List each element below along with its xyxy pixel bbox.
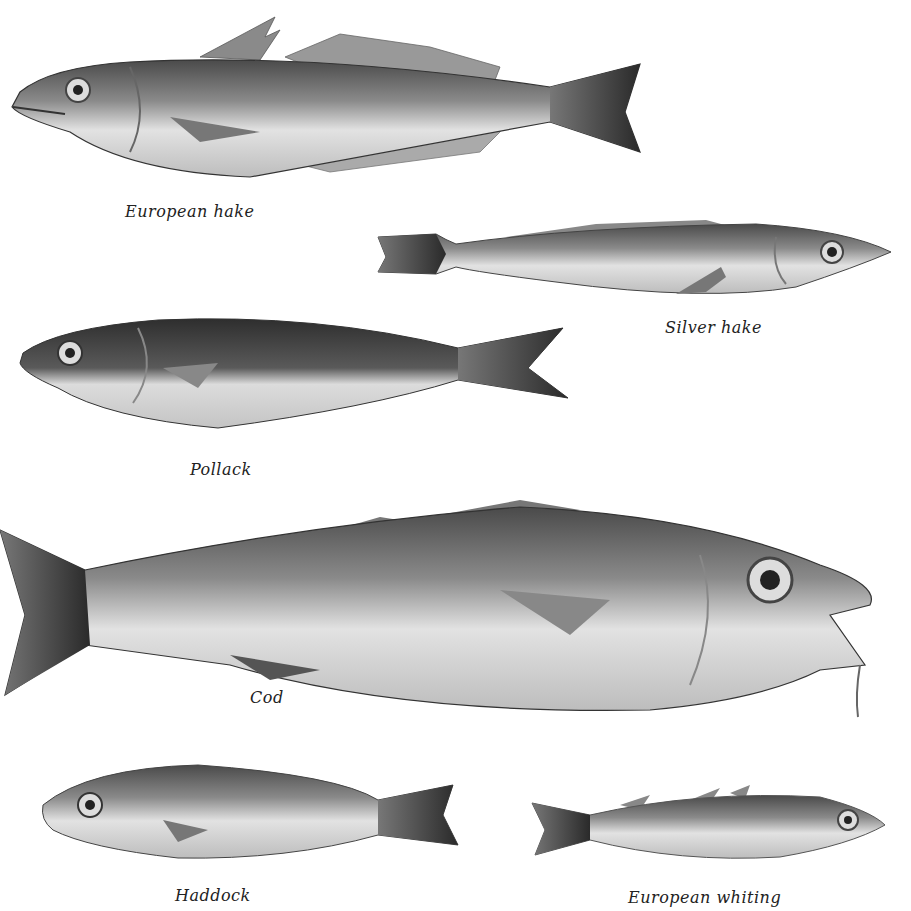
pollack-illustration (18, 308, 578, 438)
caption-european-hake: European hake (125, 202, 254, 221)
caption-european-whiting: European whiting (628, 888, 781, 907)
cod-illustration (0, 495, 880, 720)
european-whiting-illustration (530, 785, 890, 865)
haddock-illustration (38, 760, 463, 865)
silver-hake-illustration (376, 212, 898, 307)
caption-cod: Cod (250, 688, 284, 707)
european-hake-illustration (10, 12, 645, 187)
caption-haddock: Haddock (175, 886, 251, 905)
caption-pollack: Pollack (190, 460, 252, 479)
caption-silver-hake: Silver hake (665, 318, 762, 337)
